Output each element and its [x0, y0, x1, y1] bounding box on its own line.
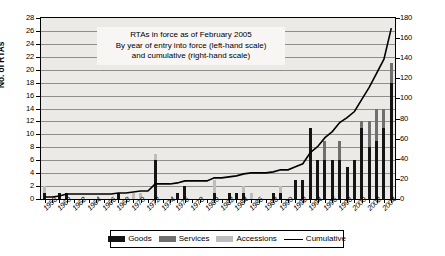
x-tick-mark [207, 200, 208, 203]
y-tick-label-right: 20 [400, 175, 426, 183]
x-tick-mark [222, 200, 223, 203]
x-tick-mark [74, 200, 75, 203]
legend-color-swatch [216, 236, 233, 242]
y-tick-mark-right [396, 119, 400, 120]
y-tick-mark-left [36, 134, 40, 135]
y-tick-label-right: 60 [400, 135, 426, 143]
y-tick-label-left: 20 [10, 66, 34, 74]
x-tick-mark [45, 200, 46, 203]
y-tick-mark-left [36, 96, 40, 97]
y-tick-mark-right [396, 38, 400, 39]
y-tick-label-left: 6 [10, 156, 34, 164]
y-tick-mark-left [36, 83, 40, 84]
y-tick-mark-left [36, 109, 40, 110]
y-tick-label-right: 40 [400, 155, 426, 163]
legend-label: Accessions [236, 235, 276, 243]
x-tick-mark [59, 200, 60, 203]
x-tick-mark [288, 200, 289, 203]
y-tick-mark-right [396, 78, 400, 79]
x-tick-mark [141, 200, 142, 203]
x-tick-mark [244, 200, 245, 203]
x-tick-mark [89, 200, 90, 203]
legend-item: Accessions [216, 235, 276, 243]
y-tick-mark-right [396, 98, 400, 99]
y-tick-label-left: 8 [10, 143, 34, 151]
y-tick-label-left: 24 [10, 40, 34, 48]
x-tick-mark [133, 200, 134, 203]
x-tick-mark [111, 200, 112, 203]
y-tick-label-right: 0 [400, 195, 426, 203]
y-tick-label-left: 22 [10, 53, 34, 61]
legend-item: Goods [108, 235, 152, 243]
x-tick-mark [177, 200, 178, 203]
legend-color-swatch [108, 236, 125, 242]
y-tick-mark-left [36, 57, 40, 58]
chart-title-box: RTAs in force as of February 2005 By yea… [97, 27, 285, 65]
y-tick-label-left: 10 [10, 130, 34, 138]
y-tick-mark-right [396, 18, 400, 19]
y-tick-mark-left [36, 160, 40, 161]
y-tick-label-right: 80 [400, 115, 426, 123]
x-tick-mark [104, 200, 105, 203]
x-tick-mark [200, 200, 201, 203]
legend-item: Services [159, 235, 210, 243]
x-tick-mark [170, 200, 171, 203]
legend-line-swatch [284, 239, 303, 240]
x-tick-mark [148, 200, 149, 203]
y-tick-mark-right [396, 179, 400, 180]
y-tick-mark-left [36, 44, 40, 45]
chart-title: RTAs in force as of February 2005 [101, 30, 281, 41]
x-tick-mark [362, 200, 363, 203]
y-tick-label-left: 2 [10, 182, 34, 190]
x-tick-mark [318, 200, 319, 203]
x-tick-mark [52, 200, 53, 203]
x-tick-mark [118, 200, 119, 203]
chart-subtitle-1: By year of entry into force (left-hand s… [101, 41, 281, 52]
y-tick-label-left: 28 [10, 14, 34, 22]
x-tick-mark [266, 200, 267, 203]
chart-legend: GoodsServicesAccessionsCumulative [110, 230, 344, 248]
y-tick-label-left: 14 [10, 105, 34, 113]
chart-container: No. of RTAs 0246810121416182022242628 02… [0, 0, 445, 256]
y-tick-label-right: 180 [400, 14, 426, 22]
y-tick-mark-left [36, 121, 40, 122]
y-tick-mark-right [396, 58, 400, 59]
legend-label: Cumulative [306, 235, 346, 243]
legend-item: Cumulative [284, 235, 346, 243]
y-tick-label-left: 4 [10, 169, 34, 177]
x-tick-mark [295, 200, 296, 203]
x-tick-mark [96, 200, 97, 203]
y-tick-mark-left [36, 147, 40, 148]
y-tick-mark-left [36, 31, 40, 32]
x-tick-mark [185, 200, 186, 203]
x-tick-mark [67, 200, 68, 203]
x-tick-mark [251, 200, 252, 203]
x-tick-mark [377, 200, 378, 203]
x-tick-mark [259, 200, 260, 203]
x-tick-mark [214, 200, 215, 203]
x-tick-mark [192, 200, 193, 203]
x-tick-mark [340, 200, 341, 203]
y-tick-label-left: 26 [10, 27, 34, 35]
y-axis-label-left: No. of RTAs [0, 42, 6, 88]
legend-label: Services [179, 235, 210, 243]
x-tick-mark [332, 200, 333, 203]
y-tick-label-left: 16 [10, 92, 34, 100]
y-tick-label-left: 18 [10, 79, 34, 87]
x-tick-mark [273, 200, 274, 203]
chart-subtitle-2: and cumulative (right-hand scale) [101, 51, 281, 62]
x-tick-mark [391, 200, 392, 203]
y-tick-label-right: 140 [400, 54, 426, 62]
y-tick-mark-left [36, 199, 40, 200]
y-tick-label-right: 120 [400, 74, 426, 82]
x-tick-mark [369, 200, 370, 203]
x-tick-mark [347, 200, 348, 203]
legend-color-swatch [159, 236, 176, 242]
x-tick-mark [163, 200, 164, 203]
y-tick-mark-left [36, 186, 40, 187]
x-tick-mark [82, 200, 83, 203]
x-tick-mark [155, 200, 156, 203]
y-tick-mark-left [36, 173, 40, 174]
y-tick-label-right: 160 [400, 34, 426, 42]
x-tick-mark [126, 200, 127, 203]
